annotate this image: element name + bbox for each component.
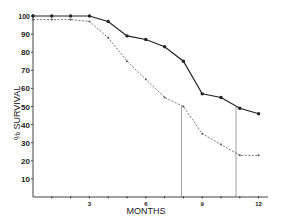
median-lines: [182, 107, 237, 198]
solid-data-point: [219, 96, 222, 99]
solid-data-point: [50, 14, 53, 17]
y-tick-label: 60: [21, 84, 30, 93]
dashed-data-point: [239, 154, 241, 156]
y-tick-label: 100: [18, 13, 30, 20]
y-axis-title: % SURVIVAL: [12, 86, 22, 140]
dashed-data-point: [182, 106, 184, 108]
solid-data-point: [69, 14, 72, 17]
dashed-data-point: [201, 133, 203, 135]
y-tick-label: 20: [21, 157, 30, 166]
y-tick-label: 30: [21, 139, 30, 148]
dashed-data-point: [220, 144, 222, 146]
solid-data-point: [125, 34, 128, 37]
solid-data-point: [144, 38, 147, 41]
dashed-data-point: [51, 19, 53, 21]
solid-data-point: [88, 14, 91, 17]
survival-chart: 102030405060708090100 36912 % SURVIVAL M…: [0, 0, 283, 224]
dashed-data-point: [70, 19, 72, 21]
y-tick-label: 70: [21, 66, 30, 75]
x-tick-labels: 36912: [88, 201, 263, 207]
dashed-data-point: [145, 78, 147, 80]
solid-series-line: [33, 16, 259, 114]
axes: [31, 14, 268, 199]
solid-data-point: [201, 92, 204, 95]
dashed-data-point: [164, 96, 166, 98]
dashed-data-point: [126, 60, 128, 62]
solid-data-point: [31, 14, 34, 17]
solid-data-point: [238, 107, 241, 110]
solid-data-point: [182, 60, 185, 63]
y-tick-label: 80: [21, 48, 30, 57]
dashed-data-point: [88, 20, 90, 22]
x-tick-label: 3: [88, 201, 92, 207]
y-tick-label: 10: [21, 175, 30, 184]
y-tick-label: 40: [21, 121, 30, 130]
y-tick-label: 50: [21, 103, 30, 112]
dashed-data-point: [32, 19, 34, 21]
x-tick-label: 9: [201, 201, 205, 207]
x-axis-title: MONTHS: [127, 206, 166, 216]
y-tick-label: 90: [21, 30, 30, 39]
x-tick-label: 12: [255, 201, 262, 207]
series-lines: [31, 14, 260, 156]
solid-data-point: [257, 112, 260, 115]
dashed-data-point: [107, 37, 109, 39]
dashed-data-point: [258, 154, 260, 156]
solid-data-point: [163, 45, 166, 48]
solid-data-point: [107, 20, 110, 23]
